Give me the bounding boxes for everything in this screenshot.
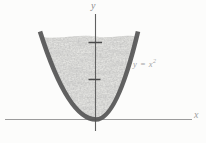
x-axis-label: x bbox=[194, 110, 198, 120]
y-axis-label: y bbox=[91, 1, 95, 11]
curve-equation-label: y = x2 bbox=[133, 57, 156, 69]
parabola-figure: y x y = x2 bbox=[0, 0, 206, 143]
curve-equation-exponent: 2 bbox=[153, 58, 156, 64]
figure-canvas bbox=[0, 0, 206, 143]
curve-equation-base: y = x bbox=[133, 59, 153, 69]
